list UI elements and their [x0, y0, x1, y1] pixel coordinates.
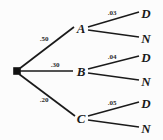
- leaf-label-b-n: N: [141, 75, 150, 88]
- probability-label-root-a: .50: [40, 36, 49, 43]
- probability-label-root-b: .30: [51, 62, 60, 69]
- probability-label-root-c: .20: [40, 97, 49, 104]
- node-label-c: C: [77, 112, 86, 125]
- probability-tree-diagram: A B C .50 .30 .20 .03 .04 .05 D N D N D …: [0, 0, 163, 140]
- node-label-a: A: [77, 22, 86, 35]
- probability-label-b-d: .04: [108, 54, 117, 61]
- branch-a-to-n: [88, 30, 139, 37]
- leaf-label-b-d: D: [141, 51, 150, 64]
- probability-label-a-d: .03: [108, 10, 117, 17]
- node-label-b: B: [77, 65, 86, 78]
- branch-c-to-n: [88, 120, 139, 127]
- leaf-label-c-d: D: [141, 97, 150, 110]
- branch-b-to-n: [88, 73, 139, 80]
- leaf-label-a-n: N: [141, 32, 150, 45]
- leaf-label-a-d: D: [141, 7, 150, 20]
- leaf-label-c-n: N: [141, 122, 150, 135]
- probability-label-c-d: .05: [108, 100, 117, 107]
- branch-root-to-a: [19, 27, 74, 69]
